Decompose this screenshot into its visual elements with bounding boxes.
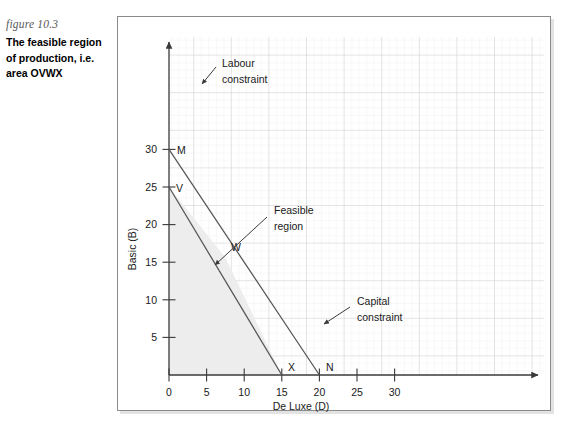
feasible-annotation-line-2: region bbox=[274, 220, 303, 232]
y-axis-tick-labels: 5 10 15 20 25 30 bbox=[145, 143, 157, 343]
x-tick-label-25: 25 bbox=[351, 386, 363, 398]
x-tick-label-5: 5 bbox=[204, 386, 210, 398]
x-tick-label-10: 10 bbox=[238, 386, 250, 398]
figure-title: The feasible region of production, i.e. … bbox=[6, 35, 106, 82]
figure-caption: figure 10.3 The feasible region of produ… bbox=[6, 18, 106, 82]
x-tick-label-0: 0 bbox=[166, 386, 172, 398]
chart-svg: 5 10 15 20 25 30 0 5 10 15 bbox=[118, 17, 552, 412]
x-tick-label-30: 30 bbox=[389, 386, 401, 398]
figure-frame: 5 10 15 20 25 30 0 5 10 15 bbox=[117, 16, 551, 411]
x-axis-title: De Luxe (D) bbox=[273, 400, 330, 412]
y-tick-label-10: 10 bbox=[145, 294, 157, 306]
capital-annotation-line-1: Capital bbox=[357, 295, 390, 307]
y-tick-label-30: 30 bbox=[145, 143, 157, 155]
y-tick-label-5: 5 bbox=[151, 331, 157, 343]
x-axis-tick-labels: 0 5 10 15 20 25 30 bbox=[166, 386, 401, 398]
point-label-N: N bbox=[326, 361, 334, 373]
point-label-X: X bbox=[288, 361, 295, 373]
point-label-M: M bbox=[177, 144, 186, 156]
chart-plot-area: 5 10 15 20 25 30 0 5 10 15 bbox=[118, 17, 552, 412]
figure-number: figure 10.3 bbox=[6, 18, 106, 30]
figure-title-line-3: area OVWX bbox=[6, 66, 106, 82]
labour-annotation-line-2: constraint bbox=[222, 73, 268, 85]
capital-annotation-line-2: constraint bbox=[357, 311, 403, 323]
point-label-V: V bbox=[176, 182, 183, 194]
x-tick-label-20: 20 bbox=[314, 386, 326, 398]
x-tick-label-15: 15 bbox=[276, 386, 288, 398]
figure-title-line-2: of production, i.e. bbox=[6, 51, 106, 67]
labour-annotation-line-1: Labour bbox=[222, 57, 255, 69]
y-tick-label-25: 25 bbox=[145, 181, 157, 193]
y-axis-title: Basic (B) bbox=[126, 228, 138, 271]
y-tick-label-20: 20 bbox=[145, 218, 157, 230]
y-tick-label-15: 15 bbox=[145, 256, 157, 268]
figure-title-line-1: The feasible region bbox=[6, 35, 106, 51]
feasible-annotation-line-1: Feasible bbox=[274, 204, 314, 216]
